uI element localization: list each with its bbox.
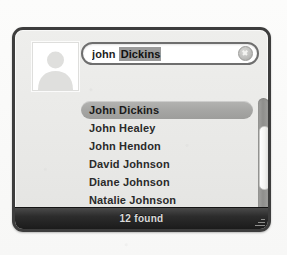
list-item[interactable]: John Dickins — [81, 101, 253, 119]
avatar — [32, 42, 79, 91]
scrollbar-thumb[interactable] — [259, 126, 270, 190]
list-item[interactable]: John Healey — [81, 119, 253, 137]
list-item[interactable]: Diane Johnson — [81, 173, 253, 191]
status-bar: 12 found — [15, 207, 268, 229]
status-found-count: 12 found — [119, 213, 163, 224]
list-item[interactable]: David Johnson — [81, 155, 253, 173]
list-item-label: Diane Johnson — [89, 176, 170, 188]
results-list: John Dickins John Healey John Hendon Dav… — [81, 101, 253, 209]
search-text: john Dickins — [92, 47, 234, 61]
search-completion-text: Dickins — [119, 47, 162, 61]
person-placeholder-icon — [33, 43, 78, 90]
list-item-label: David Johnson — [89, 158, 170, 170]
search-typed-text: john — [92, 48, 116, 60]
list-item-label: Natalie Johnson — [89, 194, 176, 206]
search-input[interactable]: john Dickins — [81, 42, 259, 65]
clear-circle-icon[interactable] — [238, 46, 253, 61]
vertical-scrollbar[interactable] — [258, 98, 269, 213]
contact-search-panel: john Dickins John Dickins John Healey Jo… — [12, 27, 271, 232]
list-item[interactable]: John Hendon — [81, 137, 253, 155]
list-item-label: John Hendon — [89, 140, 161, 152]
list-item-label: John Healey — [89, 122, 155, 134]
resize-grip-icon[interactable] — [254, 216, 265, 227]
list-item-label: John Dickins — [89, 104, 159, 116]
